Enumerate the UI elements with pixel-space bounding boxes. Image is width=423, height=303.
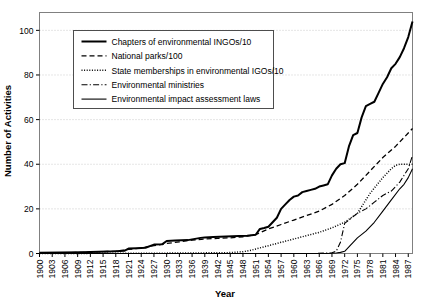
legend-label: State memberships in environmental IGOs/… [112,66,284,76]
x-tick-label: 1912 [85,259,95,278]
y-tick-label: 100 [19,26,33,36]
x-tick-label: 1951 [251,259,261,278]
y-axis-title: Number of Activities [2,85,13,177]
x-tick-label: 1939 [200,259,210,278]
x-tick-label: 1984 [391,259,401,278]
x-tick-label: 1903 [47,259,57,278]
x-tick-label: 1963 [302,259,312,278]
y-tick-label: 60 [24,115,34,125]
x-tick-label: 1969 [327,259,337,278]
x-tick-label: 1924 [136,259,146,278]
y-tick-label: 40 [24,159,34,169]
legend-label: Environmental impact assessment laws [112,94,261,104]
x-tick-label: 1921 [124,259,134,278]
y-tick-label: 80 [24,70,34,80]
x-tick-label: 1942 [213,259,223,278]
x-tick-label: 1981 [378,259,388,278]
x-tick-label: 1975 [352,259,362,278]
x-tick-label: 1906 [60,259,70,278]
x-tick-label: 1978 [365,259,375,278]
y-tick-label: 20 [24,204,34,214]
x-tick-label: 1960 [289,259,299,278]
y-tick-label: 0 [29,249,34,259]
x-tick-label: 1954 [263,259,273,278]
x-axis-title: Year [215,288,235,299]
x-tick-label: 1966 [314,259,324,278]
x-tick-label: 1930 [162,259,172,278]
line-chart: 020406080100 190019031906190919121915191… [0,0,423,303]
x-tick-label: 1915 [98,259,108,278]
x-tick-label: 1987 [403,259,413,278]
x-tick-label: 1936 [187,259,197,278]
legend-label: National parks/100 [112,51,183,61]
x-tick-label: 1957 [276,259,286,278]
legend-label: Chapters of environmental INGOs/10 [112,37,252,47]
x-tick-label: 1948 [238,259,248,278]
x-tick-label: 1909 [73,259,83,278]
x-tick-label: 1933 [174,259,184,278]
x-tick-label: 1900 [35,259,45,278]
x-tick-label: 1945 [225,259,235,278]
chart-legend: Chapters of environmental INGOs/10Nation… [74,31,284,109]
x-tick-label: 1927 [149,259,159,278]
x-tick-label: 1918 [111,259,121,278]
x-tick-label: 1972 [340,259,350,278]
legend-label: Environmental ministries [112,80,205,90]
